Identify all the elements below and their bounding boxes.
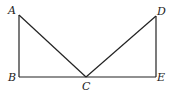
label-b: B [7,71,16,84]
segment-cd [86,16,156,77]
label-e: E [156,71,165,84]
label-c: C [82,80,91,91]
diagram-svg: A B C D E [0,0,174,91]
label-a: A [7,4,16,17]
geometry-diagram: A B C D E [0,0,174,91]
label-d: D [156,5,166,18]
segment-ac [19,15,86,77]
